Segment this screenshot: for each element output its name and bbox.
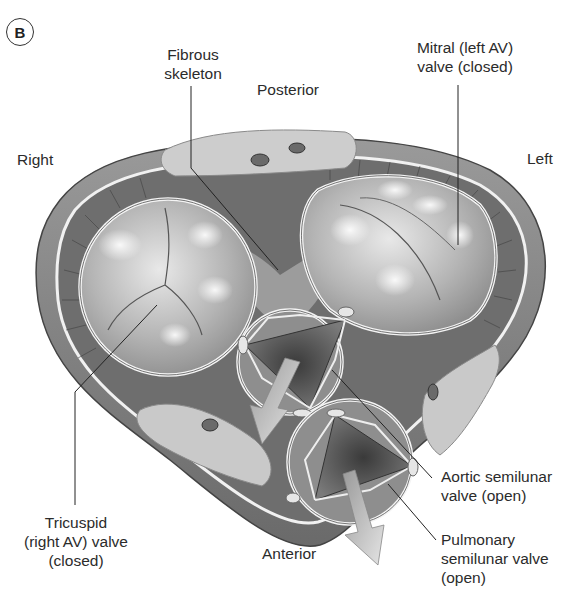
- label-left: Left: [527, 149, 553, 168]
- label-line: valve (closed): [410, 57, 520, 76]
- coronary-vessel: [428, 384, 438, 400]
- heart-valves-diagram: B Fibrous skeleton Posterior Mitral (lef…: [0, 0, 569, 605]
- label-fibrous-skeleton: Fibrous skeleton: [158, 45, 228, 83]
- label-line: (closed): [16, 551, 136, 570]
- tricuspid-valve: [80, 199, 256, 375]
- label-line: Aortic semilunar: [441, 467, 552, 486]
- panel-label: B: [15, 24, 26, 41]
- label-line: valve (open): [441, 486, 552, 505]
- label-pulmonary-valve: Pulmonary semilunar valve (open): [441, 530, 549, 587]
- label-anterior: Anterior: [262, 544, 316, 563]
- label-line: semilunar valve: [441, 549, 549, 568]
- label-line: Pulmonary: [441, 530, 549, 549]
- label-line: Fibrous: [158, 45, 228, 64]
- fat-tissue-posterior: [161, 130, 356, 176]
- coronary-vessel: [289, 143, 305, 153]
- leader-pulmonary: [388, 484, 436, 540]
- mitral-valve: [301, 176, 496, 334]
- label-line: Tricuspid: [16, 513, 136, 532]
- label-mitral-valve: Mitral (left AV) valve (closed): [410, 38, 520, 76]
- label-right: Right: [17, 150, 53, 169]
- label-line: (right AV) valve: [16, 532, 136, 551]
- coronary-vessel: [251, 154, 269, 166]
- label-posterior: Posterior: [257, 80, 319, 99]
- label-line: (open): [441, 568, 549, 587]
- label-line: skeleton: [158, 64, 228, 83]
- label-aortic-valve: Aortic semilunar valve (open): [441, 467, 552, 505]
- panel-label-badge: B: [6, 18, 34, 46]
- coronary-vessel: [202, 419, 218, 431]
- label-line: Mitral (left AV): [410, 38, 520, 57]
- label-tricuspid-valve: Tricuspid (right AV) valve (closed): [16, 513, 136, 570]
